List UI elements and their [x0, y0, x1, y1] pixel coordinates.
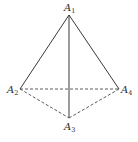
edges-group: [20, 15, 119, 118]
vertex-label-a2: A2: [6, 84, 18, 97]
vertex-label-a3: A3: [63, 121, 75, 134]
edge-a2-a3: [20, 89, 69, 118]
edge-a3-a4: [69, 89, 119, 118]
vertex-label-a1: A1: [63, 2, 75, 15]
edge-a1-a2: [20, 15, 69, 89]
tetrahedron-diagram: A1 A2 A3 A4: [0, 0, 138, 142]
vertex-label-a4: A4: [120, 84, 132, 97]
edge-a1-a4: [69, 15, 119, 89]
